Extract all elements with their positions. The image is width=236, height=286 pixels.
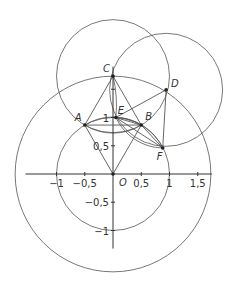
coordinate-axes: −1−0,50,511,510,5−0,5−1 — [25, 67, 211, 249]
segments — [85, 76, 166, 174]
point-c — [111, 74, 115, 78]
x-tick-label: 1,5 — [190, 178, 206, 189]
x-tick-label: 0,5 — [133, 178, 149, 189]
y-tick-label: −1 — [94, 226, 109, 237]
point-label-e: E — [118, 105, 125, 116]
point-label-b: B — [145, 111, 152, 122]
point-label-f: F — [157, 151, 163, 162]
point-label-o: O — [119, 177, 127, 188]
x-tick-label: −0,5 — [73, 178, 97, 189]
diagram-canvas: −1−0,50,511,510,5−0,5−1 OABCDEF — [0, 0, 236, 286]
x-tick-label: −1 — [49, 178, 64, 189]
point-o — [111, 172, 115, 176]
y-tick-label: 1 — [103, 113, 109, 124]
y-tick-label: 0,5 — [93, 141, 109, 152]
points: OABCDEF — [74, 63, 179, 188]
point-b — [139, 123, 143, 127]
geometry-diagram: −1−0,50,511,510,5−0,5−1 OABCDEF — [0, 0, 236, 286]
point-a — [83, 123, 87, 127]
circles — [15, 20, 222, 272]
point-label-d: D — [171, 78, 179, 89]
point-d — [164, 88, 168, 92]
point-e — [114, 116, 118, 120]
y-tick-label: −0,5 — [85, 197, 109, 208]
point-label-a: A — [74, 112, 82, 123]
point-label-c: C — [103, 63, 110, 74]
segment-df — [163, 90, 166, 148]
x-tick-label: 1 — [166, 178, 172, 189]
point-f — [161, 146, 165, 150]
